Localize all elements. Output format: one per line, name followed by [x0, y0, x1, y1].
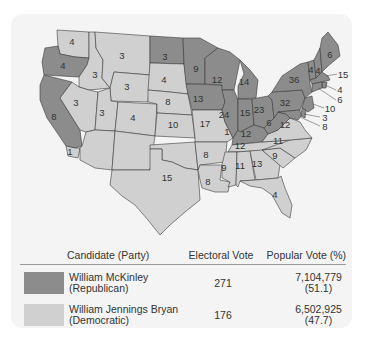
svg-text:9: 9	[193, 63, 198, 74]
state-connecticut	[312, 82, 322, 92]
svg-text:6: 6	[327, 49, 332, 60]
popular-vote: 7,104,779 (51.1)	[259, 272, 346, 294]
legend-row-bryan: William Jennings Bryan (Democratic) 176 …	[20, 300, 346, 329]
state-wyoming	[110, 72, 150, 102]
electoral-vote: 176	[187, 309, 259, 321]
svg-text:4: 4	[60, 60, 65, 71]
svg-text:15: 15	[240, 107, 251, 118]
svg-text:8: 8	[203, 149, 208, 160]
svg-text:3: 3	[92, 69, 97, 80]
svg-text:6: 6	[266, 117, 271, 128]
svg-text:8: 8	[165, 96, 170, 107]
svg-text:12: 12	[212, 74, 223, 85]
header-candidate: Candidate (Party)	[20, 249, 185, 261]
svg-text:12: 12	[241, 128, 252, 139]
legend-row-mckinley: William McKinley (Republican) 271 7,104,…	[20, 268, 346, 297]
state-south-dakota	[148, 63, 188, 94]
color-swatch-republican	[24, 272, 64, 294]
svg-text:15: 15	[162, 172, 173, 183]
svg-text:4: 4	[130, 112, 135, 123]
svg-text:10: 10	[168, 119, 179, 130]
svg-text:3: 3	[99, 107, 104, 118]
svg-text:6: 6	[337, 94, 342, 105]
candidate-name: William Jennings Bryan (Democratic)	[69, 304, 187, 326]
svg-text:4: 4	[315, 65, 320, 76]
candidate-name-text: William McKinley	[69, 272, 187, 283]
svg-text:17: 17	[200, 118, 211, 129]
svg-text:23: 23	[254, 104, 265, 115]
state-arizona	[80, 130, 115, 170]
svg-text:13: 13	[193, 93, 204, 104]
legend-table: Candidate (Party) Electoral Vote Popular…	[20, 243, 346, 329]
electoral-vote: 271	[187, 277, 259, 289]
color-swatch-democratic	[24, 304, 64, 326]
svg-text:3: 3	[124, 81, 129, 92]
legend-header: Candidate (Party) Electoral Vote Popular…	[20, 243, 346, 265]
svg-text:3: 3	[119, 50, 124, 61]
svg-text:8: 8	[205, 176, 210, 187]
svg-text:12: 12	[235, 140, 246, 151]
svg-text:4: 4	[272, 189, 277, 200]
popular-vote: 6,502,925 (47.7)	[259, 304, 346, 326]
svg-text:4: 4	[69, 36, 74, 47]
svg-text:9: 9	[272, 150, 277, 161]
svg-text:8: 8	[51, 111, 56, 122]
candidate-party-text: (Democratic)	[69, 315, 187, 326]
header-electoral: Electoral Vote	[185, 249, 257, 261]
popular-vote-percent: (51.1)	[291, 283, 346, 294]
candidate-party-text: (Republican)	[69, 283, 187, 294]
election-map: 4 4 8 1 3 3 3 3 3 4 3 4 8 10 15 9 13 17 …	[0, 0, 365, 240]
svg-text:8: 8	[322, 121, 327, 132]
svg-text:1: 1	[67, 146, 72, 157]
svg-text:14: 14	[239, 76, 250, 87]
state-wisconsin	[205, 48, 240, 90]
svg-text:13: 13	[252, 158, 263, 169]
svg-text:32: 32	[280, 97, 291, 108]
popular-vote-percent: (47.7)	[291, 315, 346, 326]
candidate-name-text: William Jennings Bryan	[69, 304, 187, 315]
state-colorado	[115, 102, 157, 136]
svg-text:15: 15	[338, 69, 349, 80]
svg-text:24: 24	[219, 109, 230, 120]
popular-vote-count: 6,502,925	[291, 304, 346, 315]
state-new-mexico	[112, 131, 155, 170]
svg-text:3: 3	[73, 97, 78, 108]
state-florida	[240, 176, 292, 218]
svg-text:12: 12	[280, 119, 291, 130]
state-rhode-island	[322, 82, 327, 88]
svg-text:11: 11	[273, 135, 283, 146]
svg-text:4: 4	[308, 64, 313, 75]
header-popular: Popular Vote (%)	[257, 249, 346, 261]
svg-text:1: 1	[224, 126, 229, 137]
popular-vote-count: 7,104,779	[291, 272, 346, 283]
svg-text:9: 9	[221, 162, 226, 173]
candidate-name: William McKinley (Republican)	[69, 272, 187, 294]
svg-text:36: 36	[289, 74, 300, 85]
svg-text:3: 3	[162, 51, 167, 62]
svg-text:11: 11	[235, 160, 245, 171]
svg-text:4: 4	[161, 74, 166, 85]
state-delaware	[301, 108, 306, 118]
